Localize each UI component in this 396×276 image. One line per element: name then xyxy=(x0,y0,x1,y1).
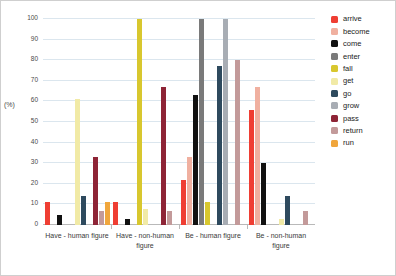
bar-pass xyxy=(161,87,166,225)
bar-slot-run xyxy=(173,19,178,225)
bar-go xyxy=(217,66,222,225)
bar-run xyxy=(105,202,110,225)
bar-slot-fall xyxy=(137,19,142,225)
bar-slot-enter xyxy=(267,19,272,225)
bar-slot-get xyxy=(211,19,216,225)
bar-slot-fall xyxy=(69,19,74,225)
legend-item-pass[interactable]: pass xyxy=(331,112,393,124)
bar-arrive xyxy=(181,180,186,225)
bar-slot-arrive xyxy=(113,19,118,225)
bar-slot-get xyxy=(279,19,284,225)
bar-slot-pass xyxy=(93,19,98,225)
legend-label: grow xyxy=(343,102,359,110)
legend-swatch-icon xyxy=(331,53,338,60)
legend-swatch-icon xyxy=(331,78,338,85)
bar-slot-enter xyxy=(131,19,136,225)
bar-become xyxy=(187,157,192,225)
legend-swatch-icon xyxy=(331,40,338,47)
bar-slot-come xyxy=(125,19,130,225)
x-axis-label: Have - human figure xyxy=(43,231,111,251)
legend-label: go xyxy=(343,90,351,98)
bar-pass xyxy=(93,157,98,225)
bar-arrive xyxy=(45,202,50,225)
legend-label: return xyxy=(343,127,363,135)
bar-slot-arrive xyxy=(249,19,254,225)
bar-slot-pass xyxy=(161,19,166,225)
bar-slot-fall xyxy=(273,19,278,225)
bar-come xyxy=(125,219,130,225)
x-axis-label: Have - non-human figure xyxy=(111,231,179,251)
y-tick-label: 0 xyxy=(34,221,38,228)
plot-area: 0102030405060708090100 xyxy=(43,19,315,225)
legend-label: fall xyxy=(343,65,353,73)
legend-item-come[interactable]: come xyxy=(331,38,393,50)
bar-arrive xyxy=(249,110,254,225)
bar-get xyxy=(75,99,80,225)
bar-slot-grow xyxy=(223,19,228,225)
bar-fall xyxy=(137,19,142,225)
legend-item-get[interactable]: get xyxy=(331,75,393,87)
legend-item-return[interactable]: return xyxy=(331,125,393,137)
bar-get xyxy=(143,209,148,225)
legend-item-become[interactable]: become xyxy=(331,25,393,37)
bar-slot-grow xyxy=(155,19,160,225)
bar-go xyxy=(81,196,86,225)
bar-slot-pass xyxy=(297,19,302,225)
bar-slot-become xyxy=(255,19,260,225)
legend-label: become xyxy=(343,28,370,36)
bar-slot-return xyxy=(303,19,308,225)
y-tick-label: 20 xyxy=(31,180,38,187)
bar-return xyxy=(303,211,308,225)
axis-tick xyxy=(111,225,112,229)
y-tick-label: 100 xyxy=(27,15,38,22)
legend-swatch-icon xyxy=(331,115,338,122)
bar-grow xyxy=(223,19,228,225)
legend-swatch-icon xyxy=(331,127,338,134)
legend-item-grow[interactable]: grow xyxy=(331,100,393,112)
bar-slot-arrive xyxy=(45,19,50,225)
bar-slot-come xyxy=(57,19,62,225)
bar-slot-go xyxy=(217,19,222,225)
y-tick-label: 60 xyxy=(31,97,38,104)
legend-item-arrive[interactable]: arrive xyxy=(331,13,393,25)
axis-tick xyxy=(247,225,248,229)
legend-item-enter[interactable]: enter xyxy=(331,50,393,62)
bar-slot-grow xyxy=(87,19,92,225)
bar-come xyxy=(193,95,198,225)
legend-item-fall[interactable]: fall xyxy=(331,63,393,75)
y-tick-label: 70 xyxy=(31,77,38,84)
bar-enter xyxy=(199,19,204,225)
bar-slot-come xyxy=(261,19,266,225)
bar-slot-go xyxy=(285,19,290,225)
bar-slot-run xyxy=(241,19,246,225)
bar-slot-go xyxy=(149,19,154,225)
legend-label: run xyxy=(343,139,354,147)
bar-slot-become xyxy=(119,19,124,225)
bar-arrive xyxy=(113,202,118,225)
bar-come xyxy=(57,215,62,225)
bar-chart: (%) 0102030405060708090100 Have - human … xyxy=(0,0,396,276)
legend-label: enter xyxy=(343,53,360,61)
bar-slot-get xyxy=(75,19,80,225)
y-tick-label: 50 xyxy=(31,118,38,125)
bar-get xyxy=(279,219,284,225)
legend-swatch-icon xyxy=(331,140,338,147)
y-axis-title: (%) xyxy=(4,101,15,108)
y-tick-label: 30 xyxy=(31,159,38,166)
legend-item-go[interactable]: go xyxy=(331,87,393,99)
bar-slot-come xyxy=(193,19,198,225)
bar-group xyxy=(43,19,111,225)
bar-group xyxy=(111,19,179,225)
bar-group xyxy=(247,19,315,225)
bar-groups xyxy=(43,19,315,225)
bar-slot-return xyxy=(235,19,240,225)
y-tick-label: 80 xyxy=(31,56,38,63)
legend-item-run[interactable]: run xyxy=(331,137,393,149)
legend-swatch-icon xyxy=(331,102,338,109)
bar-slot-pass xyxy=(229,19,234,225)
bar-come xyxy=(261,163,266,225)
bar-slot-become xyxy=(187,19,192,225)
bar-become xyxy=(255,87,260,225)
y-tick-label: 90 xyxy=(31,35,38,42)
legend-label: come xyxy=(343,40,361,48)
